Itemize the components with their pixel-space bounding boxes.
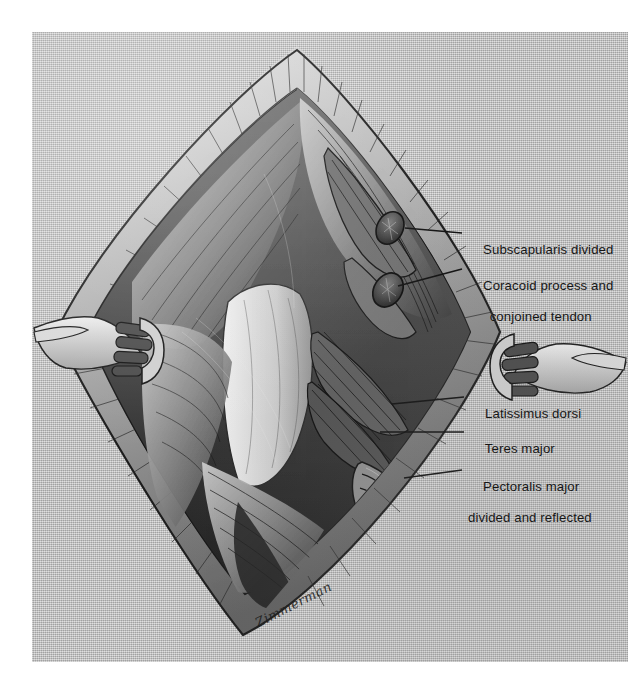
- figure-canvas: Zimmerman Subscapularis divided Coracoid…: [0, 0, 640, 683]
- label-pectoralis-major: Pectoralis major divided and reflected: [468, 463, 592, 556]
- label-pectoralis-major-line2: divided and reflected: [468, 510, 592, 526]
- label-pectoralis-major-line1: Pectoralis major: [483, 479, 579, 494]
- label-coracoid-line1: Coracoid process and: [483, 278, 613, 293]
- label-subscapularis-line1: Subscapularis divided: [483, 242, 613, 257]
- label-coracoid: Coracoid process and conjoined tendon: [468, 262, 613, 355]
- label-latissimus-dorsi-line1: Latissimus dorsi: [485, 406, 581, 421]
- label-coracoid-line2: conjoined tendon: [468, 309, 613, 325]
- label-teres-major-line1: Teres major: [485, 441, 555, 456]
